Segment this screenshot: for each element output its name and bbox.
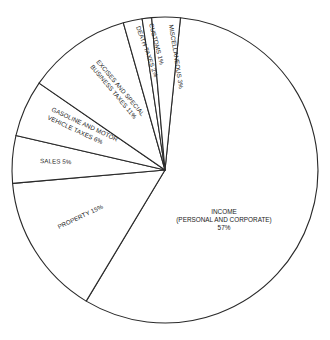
income-label-line2: (PERSONAL AND CORPORATE) — [176, 216, 272, 224]
pie-chart: INCOME (PERSONAL AND CORPORATE) 57% PROP… — [0, 0, 330, 340]
income-label-line3: 57% — [218, 224, 231, 231]
income-label-line1: INCOME — [211, 208, 237, 215]
slice-label-sales: SALES 5% — [40, 157, 72, 165]
